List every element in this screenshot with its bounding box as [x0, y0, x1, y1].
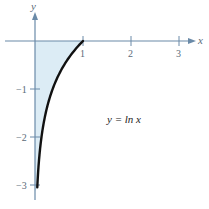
y-axis-label: y: [30, 0, 36, 12]
x-tick-label-2: 2: [128, 48, 133, 59]
y-tick-label-minus-3: −3: [16, 180, 27, 191]
shaded-region: [35, 41, 83, 191]
y-axis-arrow-icon: [32, 12, 38, 20]
x-axis-label: x: [197, 34, 203, 46]
x-tick-label-1: 1: [80, 48, 85, 59]
x-axis-arrow-icon: [188, 38, 196, 44]
x-tick-label-3: 3: [176, 48, 181, 59]
y-tick-label-minus-1: −1: [16, 84, 27, 95]
chart: x y 1 2 3 −1 −2 −3 y = ln x: [0, 0, 209, 209]
function-label: y = ln x: [106, 113, 141, 125]
y-tick-label-minus-2: −2: [16, 132, 27, 143]
